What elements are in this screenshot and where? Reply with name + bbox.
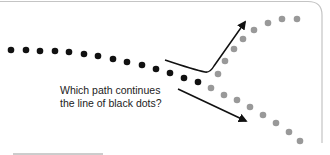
question-caption: Which path continues the line of black d… <box>60 84 170 110</box>
black-dot <box>66 49 73 56</box>
black-dot <box>110 56 117 63</box>
gray-dot <box>297 138 304 145</box>
gray-dot <box>222 58 229 65</box>
black-dot <box>139 62 146 69</box>
gray-dot <box>234 97 241 104</box>
black-dot <box>81 51 88 58</box>
lower-path-arrow <box>178 89 246 121</box>
gray-dot <box>260 112 267 119</box>
black-dot <box>23 47 30 54</box>
gray-dot <box>231 46 238 53</box>
black-dot <box>195 79 202 86</box>
gray-dot <box>215 71 222 78</box>
gray-dot <box>221 92 228 99</box>
black-dot <box>95 53 102 60</box>
gray-dot <box>279 16 286 23</box>
gray-dot <box>251 27 258 34</box>
black-dot-line <box>8 47 202 86</box>
dot-path-diagram <box>0 0 330 155</box>
black-dot <box>153 66 160 73</box>
lower-gray-dot-path <box>208 85 304 145</box>
caption-line-1: Which path continues <box>60 84 170 97</box>
caption-line-2: the line of black dots? <box>60 97 170 110</box>
gray-dot <box>286 129 293 136</box>
gray-dot <box>265 20 272 27</box>
gray-dot <box>247 104 254 111</box>
black-dot <box>181 75 188 82</box>
gray-dot <box>208 85 215 92</box>
black-dot <box>37 48 44 55</box>
gray-dot <box>240 36 247 43</box>
gray-dot <box>294 16 301 23</box>
black-dot <box>8 47 15 54</box>
gray-dot <box>273 120 280 127</box>
black-dot <box>167 70 174 77</box>
black-dot <box>124 59 131 66</box>
arrows <box>165 22 246 121</box>
black-dot <box>52 48 59 55</box>
